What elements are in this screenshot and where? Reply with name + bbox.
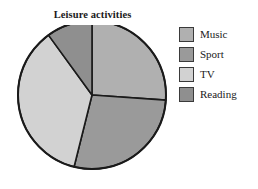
legend-label-reading: Reading: [200, 89, 237, 100]
legend-item-reading[interactable]: Reading: [179, 84, 258, 104]
pie-slice-music[interactable]: [92, 25, 166, 100]
legend-item-tv[interactable]: TV: [179, 64, 258, 84]
legend-swatch-tv: [179, 67, 194, 82]
legend: Music Sport TV Reading: [179, 24, 258, 104]
legend-label-tv: TV: [200, 69, 215, 80]
legend-swatch-reading: [179, 87, 194, 102]
legend-label-sport: Sport: [200, 49, 224, 60]
legend-label-music: Music: [200, 29, 228, 40]
chart-page: Leisure activities Music Sport TV Readin…: [0, 0, 258, 189]
legend-item-sport[interactable]: Sport: [179, 44, 258, 64]
legend-item-music[interactable]: Music: [179, 24, 258, 44]
pie-chart-svg: [16, 25, 168, 177]
page-title: Leisure activities: [0, 9, 185, 20]
pie-chart: [16, 25, 168, 177]
legend-swatch-sport: [179, 47, 194, 62]
legend-swatch-music: [179, 27, 194, 42]
